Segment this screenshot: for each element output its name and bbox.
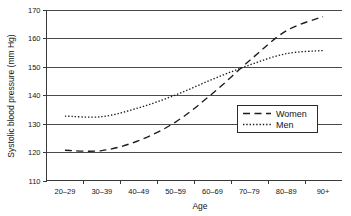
x-tick-label-5: 70–79 — [239, 187, 260, 196]
legend: Women Men — [238, 106, 318, 133]
y-tick-label-160: 160 — [28, 34, 41, 43]
y-tick-label-140: 140 — [28, 91, 41, 100]
x-tick-label-6: 80–89 — [276, 187, 297, 196]
x-tick-label-2: 40–49 — [128, 187, 149, 196]
y-tick-label-130: 130 — [28, 120, 41, 129]
x-tick-label-7: 90+ — [317, 187, 330, 196]
x-tick-label-1: 30–39 — [91, 187, 112, 196]
x-axis-title: Age — [192, 201, 207, 211]
x-tick-label-3: 50–59 — [165, 187, 186, 196]
blood-pressure-line-chart: Systolic blood pressure (mm Hg) 17016015… — [0, 0, 351, 216]
y-tick-label-120: 120 — [28, 148, 41, 157]
x-tick-label-4: 60–69 — [202, 187, 223, 196]
x-axis-tick-labels: 20–2930–3940–4950–5960–6970–7980–8990+ — [55, 187, 331, 196]
y-tick-label-150: 150 — [28, 63, 41, 72]
y-axis-title: Systolic blood pressure (mm Hg) — [6, 34, 16, 157]
y-tick-label-170: 170 — [28, 6, 41, 15]
y-axis-tick-labels: 170160150140130120110 — [28, 6, 41, 186]
chart-canvas: Systolic blood pressure (mm Hg) 17016015… — [0, 0, 351, 216]
legend-label-men: Men — [276, 120, 294, 130]
y-tick-label-110: 110 — [29, 177, 41, 186]
x-tick-label-0: 20–29 — [55, 187, 76, 196]
legend-label-women: Women — [276, 109, 307, 119]
